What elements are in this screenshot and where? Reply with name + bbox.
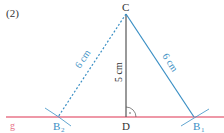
point-b2-label: B 2 bbox=[53, 120, 65, 133]
height-measurement-label: 5 cm bbox=[113, 62, 124, 82]
svg-text:B: B bbox=[193, 120, 200, 132]
geometry-construction-diagram: (2) g C D B 1 B 2 5 cm 6 cm 6 cm bbox=[0, 0, 224, 133]
svg-text:2: 2 bbox=[61, 126, 65, 133]
side-cb1 bbox=[126, 14, 194, 117]
point-c-label: C bbox=[122, 1, 129, 13]
svg-text:B: B bbox=[53, 120, 60, 132]
point-d-label: D bbox=[122, 120, 130, 132]
svg-text:1: 1 bbox=[201, 126, 205, 133]
right-angle-mark bbox=[126, 107, 136, 117]
line-g-label: g bbox=[10, 120, 15, 131]
side-cb2-measurement-label: 6 cm bbox=[72, 47, 92, 70]
figure-label: (2) bbox=[6, 7, 19, 20]
right-angle-dot bbox=[129, 112, 131, 114]
point-b1-label: B 1 bbox=[193, 120, 205, 133]
